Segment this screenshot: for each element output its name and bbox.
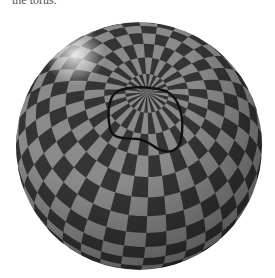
specular-highlight <box>16 22 262 270</box>
checkered-sphere-figure <box>0 0 275 278</box>
